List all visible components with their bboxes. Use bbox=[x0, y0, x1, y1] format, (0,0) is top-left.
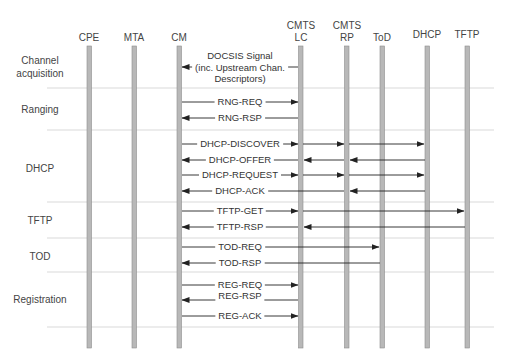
lifeline-cm bbox=[177, 46, 182, 348]
entity-tod: ToD bbox=[357, 32, 407, 44]
lifeline-dhcp bbox=[425, 46, 430, 348]
message-dhcp-ack: DHCP-ACK bbox=[212, 185, 268, 196]
message-dhcp-request: DHCP-REQUEST bbox=[199, 169, 281, 180]
message-label-line3: Descriptors) bbox=[195, 73, 285, 85]
entity-label-line1: CMTS bbox=[276, 20, 326, 32]
entity-label: CM bbox=[171, 32, 187, 43]
message-tod-rsp: TOD-RSP bbox=[216, 257, 265, 268]
entity-label: DHCP bbox=[413, 29, 441, 40]
message-dhcp-discover: DHCP-DISCOVER bbox=[197, 138, 283, 149]
message-reg-req: REG-REQ bbox=[215, 279, 265, 290]
message-reg-rsp: REG-RSP bbox=[215, 290, 264, 301]
phase-ranging: Ranging bbox=[0, 103, 80, 116]
phase-label: TOD bbox=[30, 251, 51, 262]
message-label-line2: (inc. Upstream Chan. bbox=[195, 62, 285, 74]
entity-cm: CM bbox=[154, 32, 204, 44]
message-reg-ack: REG-ACK bbox=[215, 310, 264, 321]
entity-label: TFTP bbox=[455, 29, 480, 40]
sequence-diagram: CPE MTA CM CMTS LC CMTS RP ToD DHCP TFTP… bbox=[0, 0, 509, 361]
phase-label: TFTP bbox=[28, 215, 53, 226]
phase-label: Registration bbox=[13, 294, 66, 305]
phase-label-line1: Channel bbox=[0, 54, 80, 67]
entity-label: MTA bbox=[124, 32, 144, 43]
message-tftp-rsp: TFTP-RSP bbox=[214, 221, 266, 232]
entity-label-line1: CMTS bbox=[322, 20, 372, 32]
entity-cpe: CPE bbox=[64, 32, 114, 44]
lifeline-cmts-rp bbox=[345, 46, 350, 348]
lifelines bbox=[87, 46, 470, 348]
entity-label: ToD bbox=[373, 32, 391, 43]
lifeline-tftp bbox=[465, 46, 470, 348]
phase-tftp: TFTP bbox=[0, 214, 80, 227]
phase-registration: Registration bbox=[0, 293, 80, 306]
phase-label-line2: acquisition bbox=[0, 67, 80, 80]
message-rng-req: RNG-REQ bbox=[215, 96, 266, 107]
phase-label: DHCP bbox=[26, 163, 54, 174]
entity-tftp: TFTP bbox=[442, 29, 492, 41]
lifeline-mta bbox=[132, 46, 137, 348]
entity-label: CPE bbox=[79, 32, 100, 43]
lifeline-tod bbox=[380, 46, 385, 348]
entity-label-line2: LC bbox=[276, 32, 326, 44]
message-tftp-get: TFTP-GET bbox=[214, 205, 266, 216]
lifeline-cpe bbox=[87, 46, 92, 348]
phase-tod: TOD bbox=[0, 250, 80, 263]
message-dhcp-offer: DHCP-OFFER bbox=[206, 154, 274, 165]
phase-label: Ranging bbox=[21, 104, 58, 115]
message-tod-req: TOD-REQ bbox=[215, 241, 265, 252]
message-rng-rsp: RNG-RSP bbox=[215, 112, 265, 123]
entity-cmts-lc: CMTS LC bbox=[276, 20, 326, 44]
message-label-line1: DOCSIS Signal bbox=[195, 50, 285, 62]
phase-dhcp: DHCP bbox=[0, 162, 80, 175]
lifeline-cmts-lc bbox=[299, 46, 304, 348]
entity-mta: MTA bbox=[109, 32, 159, 44]
phase-channel-acquisition: Channel acquisition bbox=[0, 54, 80, 80]
message-docsis-signal: DOCSIS Signal (inc. Upstream Chan. Descr… bbox=[192, 50, 288, 85]
